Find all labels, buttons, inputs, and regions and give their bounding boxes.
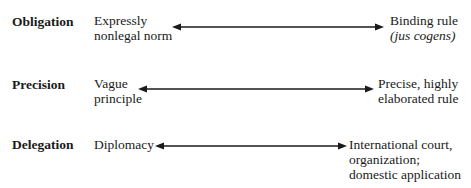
obligation-high-line2: (jus cogens) bbox=[390, 28, 458, 43]
obligation-low-end: Expressly nonlegal norm bbox=[94, 13, 172, 43]
precision-double-arrow-icon bbox=[138, 84, 374, 94]
delegation-high-end: International court, organization; domes… bbox=[349, 137, 461, 182]
obligation-low-line1: Expressly bbox=[94, 13, 172, 28]
delegation-high-line1: International court, bbox=[349, 137, 461, 152]
delegation-high-line2: organization; bbox=[349, 152, 461, 167]
obligation-high-end: Binding rule (jus cogens) bbox=[390, 13, 458, 43]
obligation-high-line1: Binding rule bbox=[390, 13, 458, 28]
precision-high-line2: elaborated rule bbox=[378, 91, 459, 106]
precision-high-line1: Precise, highly bbox=[378, 76, 459, 91]
delegation-low-line1: Diplomacy bbox=[94, 137, 154, 152]
delegation-low-end: Diplomacy bbox=[94, 137, 154, 152]
precision-low-line2: principle bbox=[94, 91, 142, 106]
precision-low-line1: Vague bbox=[94, 76, 142, 91]
dimension-label-obligation: Obligation bbox=[12, 14, 74, 30]
dimension-label-precision: Precision bbox=[12, 77, 65, 93]
obligation-double-arrow-icon bbox=[172, 22, 384, 32]
delegation-high-line3: domestic application bbox=[349, 167, 461, 182]
obligation-low-line2: nonlegal norm bbox=[94, 28, 172, 43]
dimension-label-delegation: Delegation bbox=[12, 137, 74, 153]
precision-high-end: Precise, highly elaborated rule bbox=[378, 76, 459, 106]
precision-low-end: Vague principle bbox=[94, 76, 142, 106]
delegation-double-arrow-icon bbox=[155, 141, 347, 151]
